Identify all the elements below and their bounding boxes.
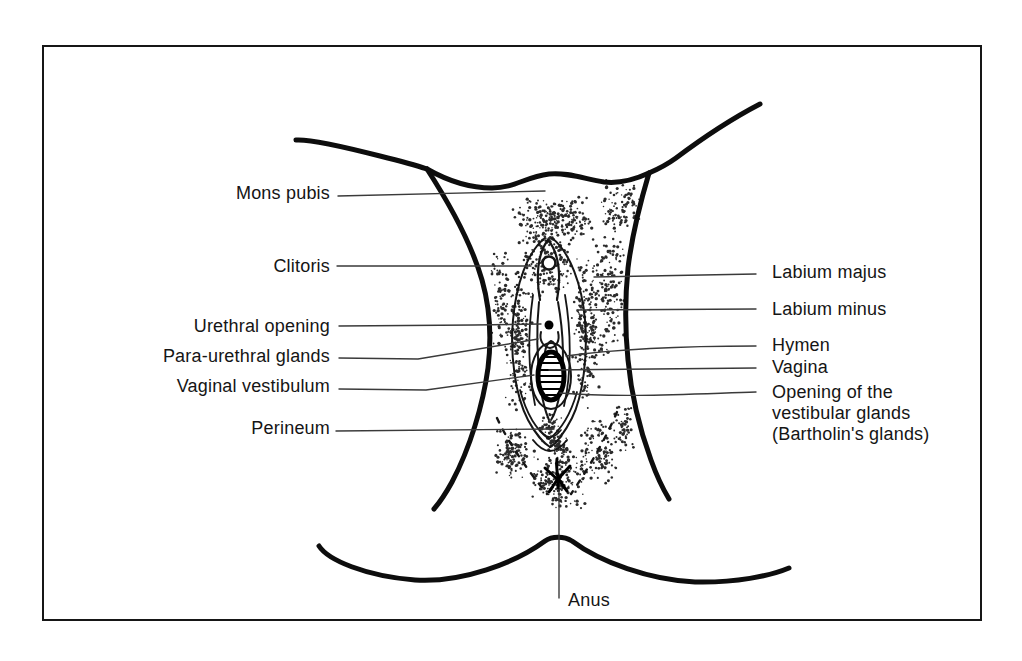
leader-labium-majus xyxy=(594,274,756,277)
label-mons-pubis: Mons pubis xyxy=(236,183,330,204)
label-perineum: Perineum xyxy=(251,418,330,439)
abdomen-contour-right xyxy=(649,104,760,173)
label-hymen: Hymen xyxy=(772,335,830,356)
leader-para-urethral-glands xyxy=(339,339,538,359)
leader-perineum xyxy=(336,429,554,431)
leader-vagina xyxy=(549,368,756,370)
right-thigh-contour xyxy=(626,173,669,499)
label-vestibular-glands-line3: (Bartholin's glands) xyxy=(772,424,930,445)
label-vaginal-vestibulum: Vaginal vestibulum xyxy=(177,376,330,397)
label-labium-minus: Labium minus xyxy=(772,299,886,320)
clitoris-glans xyxy=(543,257,556,270)
label-para-urethral-glands: Para-urethral glands xyxy=(163,346,330,367)
label-vestibular-glands-line1: Opening of the xyxy=(772,382,930,403)
abdominal-fold xyxy=(427,169,649,188)
label-vestibular-glands: Opening of the vestibular glands (Bartho… xyxy=(772,382,930,445)
label-clitoris: Clitoris xyxy=(273,256,330,277)
left-thigh-contour xyxy=(427,169,490,509)
urethral-opening-dot xyxy=(545,321,554,330)
label-vestibular-glands-line2: vestibular glands xyxy=(772,403,930,424)
buttock-fold-contour xyxy=(319,537,789,582)
leader-urethral-opening xyxy=(339,324,541,326)
abdomen-contour-left xyxy=(296,140,427,169)
label-anus: Anus xyxy=(568,590,610,611)
label-vagina: Vagina xyxy=(772,357,828,378)
figure-page: Mons pubis Clitoris Urethral opening Par… xyxy=(0,0,1022,661)
anatomy-illustration xyxy=(0,0,1022,661)
leader-vaginal-vestibulum xyxy=(339,375,534,390)
label-labium-majus: Labium majus xyxy=(772,262,886,283)
label-urethral-opening: Urethral opening xyxy=(194,316,330,337)
